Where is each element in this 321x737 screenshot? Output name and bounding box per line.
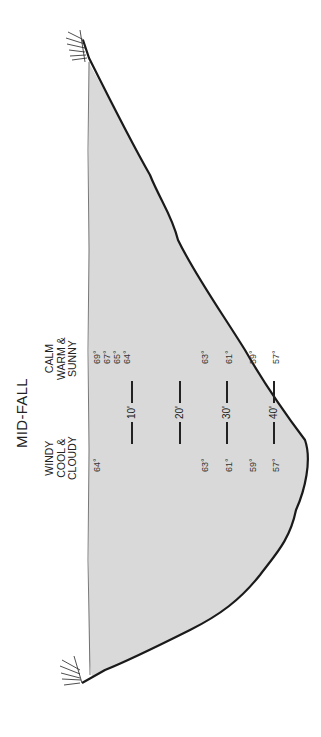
temp-cloudy-59: 59° [249, 458, 258, 472]
temp-sunny-57: 57° [272, 350, 281, 364]
condition-line: WINDY [44, 436, 56, 480]
depth-line [226, 381, 227, 403]
depth-line [131, 381, 132, 403]
depth-line [131, 422, 132, 444]
temp-sunny-67: 67° [103, 350, 112, 364]
temp-cloudy-64: 64° [93, 458, 102, 472]
condition-label-windy-cool-cloudy: WINDY COOL & CLOUDY [44, 436, 79, 480]
temp-sunny-59: 59° [249, 350, 258, 364]
temp-cloudy-61: 61° [225, 458, 234, 472]
condition-line: CLOUDY [67, 436, 79, 480]
condition-label-calm-warm-sunny: CALM WARM & SUNNY [44, 337, 79, 380]
depth-marker-30ft: 30' [222, 381, 232, 444]
temp-sunny-64: 64° [123, 350, 132, 364]
depth-marker-10ft: 10' [127, 381, 137, 444]
depth-line [273, 422, 274, 444]
season-title: MID-FALL [14, 378, 29, 448]
shore-vegetation-bottom [60, 656, 82, 685]
condition-line: SUNNY [67, 337, 79, 380]
temp-sunny-61: 61° [225, 350, 234, 364]
temp-cloudy-63: 63° [201, 458, 210, 472]
lake-water-body [89, 60, 308, 677]
depth-line [226, 422, 227, 444]
temp-cloudy-57: 57° [272, 458, 281, 472]
depth-line [179, 422, 180, 444]
depth-marker-20ft: 20' [175, 381, 185, 444]
depth-line [273, 381, 274, 403]
temp-sunny-63: 63° [201, 350, 210, 364]
depth-marker-40ft: 40' [269, 381, 279, 444]
depth-line [179, 381, 180, 403]
temp-sunny-65: 65° [113, 350, 122, 364]
condition-line: CALM [44, 337, 56, 380]
temp-sunny-69: 69° [93, 350, 102, 364]
